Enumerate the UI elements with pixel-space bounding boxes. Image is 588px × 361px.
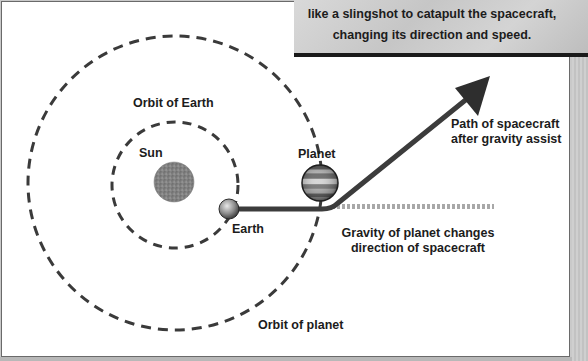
earth-icon (219, 199, 239, 219)
gravity-changes-direction-label: Gravity of planet changes direction of s… (338, 226, 498, 256)
arrowhead-icon (455, 76, 490, 116)
path-label-line-2: after gravity assist (451, 132, 588, 147)
sun-icon (154, 162, 194, 202)
earth-label: Earth (232, 222, 264, 237)
gravity-label-line-1: Gravity of planet changes (338, 226, 498, 241)
orbit-of-planet-label: Orbit of planet (258, 318, 343, 333)
sun-label: Sun (139, 146, 163, 161)
planet-label: Planet (298, 147, 336, 162)
caption-line-2: changing its direction and speed. (294, 25, 570, 46)
path-after-assist-label: Path of spacecraft after gravity assist (451, 117, 588, 147)
planet-icon (300, 165, 340, 202)
orbit-of-earth-label: Orbit of Earth (133, 96, 214, 111)
spacecraft-path (236, 98, 468, 209)
path-label-line-1: Path of spacecraft (451, 117, 588, 132)
gravity-label-line-2: direction of spacecraft (338, 241, 498, 256)
caption-box: like a slingshot to catapult the spacecr… (294, 0, 588, 57)
caption-line-1: like a slingshot to catapult the spacecr… (294, 4, 570, 25)
